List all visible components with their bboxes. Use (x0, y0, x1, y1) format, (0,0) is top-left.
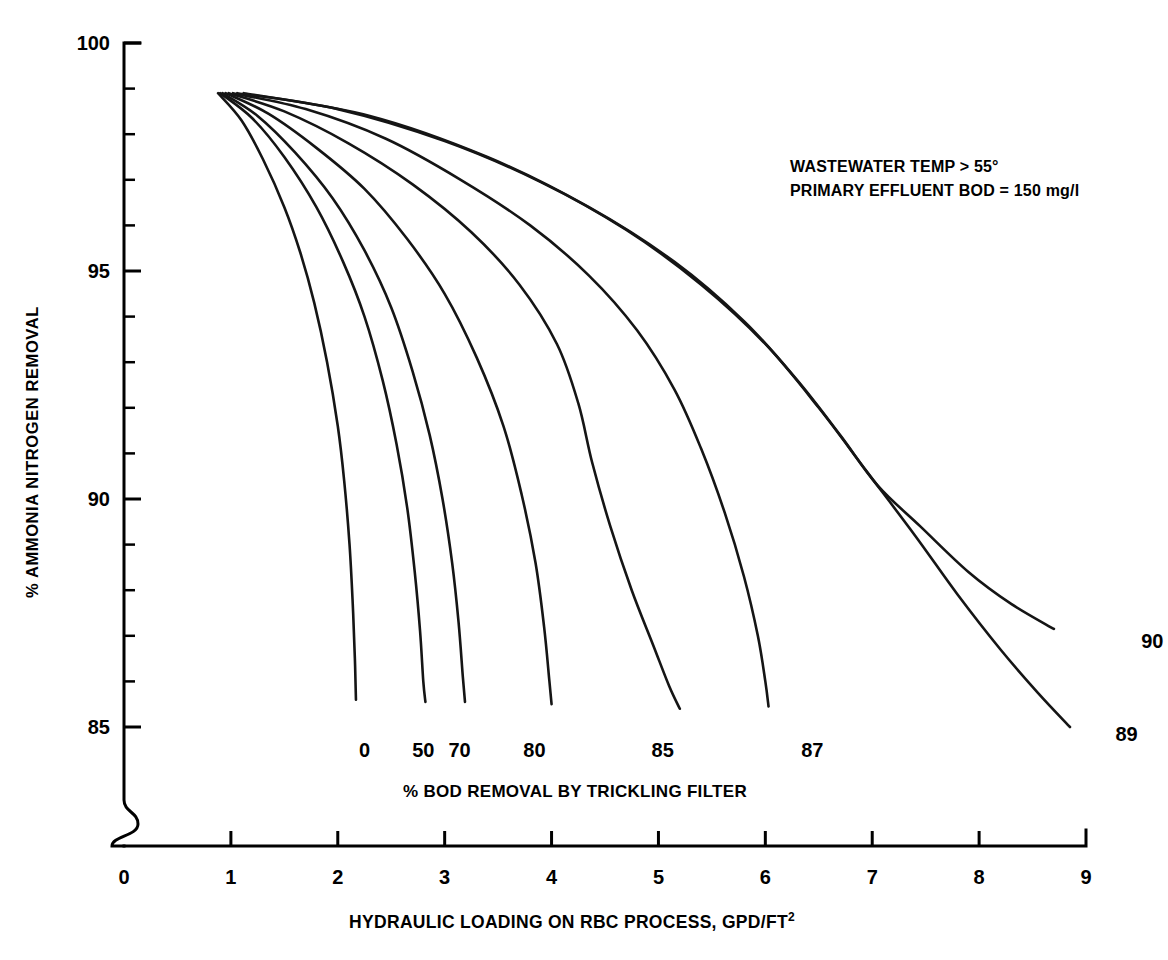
chart-svg: 100959085 0123456789 050708085878990 WAS… (0, 0, 1168, 960)
x-axis-title-text: HYDRAULIC LOADING ON RBC PROCESS, GPD/FT (349, 912, 788, 932)
curve-label-0: 0 (359, 739, 370, 761)
x-tick-label: 3 (439, 866, 450, 888)
x-axis-tick-labels: 0123456789 (118, 866, 1091, 888)
x-tick-label: 4 (546, 866, 558, 888)
y-tick-label: 90 (88, 488, 110, 510)
curve-label-80: 80 (523, 739, 545, 761)
y-tick-label: 85 (88, 716, 110, 738)
curve-70 (222, 93, 465, 702)
x-tick-label: 1 (225, 866, 236, 888)
annotation-bod: PRIMARY EFFLUENT BOD = 150 mg/l (790, 182, 1079, 199)
x-tick-label: 9 (1080, 866, 1091, 888)
y-axis-tick-labels: 100959085 (77, 32, 110, 738)
x-tick-label: 8 (974, 866, 985, 888)
y-axis-title: % AMMONIA NITROGEN REMOVAL (23, 306, 41, 598)
annotation-temperature: WASTEWATER TEMP > 55° (790, 158, 999, 175)
x-tick-label: 7 (867, 866, 878, 888)
x-tick-label: 6 (760, 866, 771, 888)
curve-label-70: 70 (449, 739, 471, 761)
y-tick-label: 100 (77, 32, 110, 54)
curve-label-87: 87 (801, 739, 823, 761)
curve-label-89: 89 (1115, 723, 1137, 745)
x-axis-title: HYDRAULIC LOADING ON RBC PROCESS, GPD/FT… (349, 910, 795, 932)
curve-label-50: 50 (412, 739, 434, 761)
y-tick-label: 95 (88, 260, 110, 282)
x-tick-label: 5 (653, 866, 664, 888)
x-tick-label: 2 (332, 866, 343, 888)
curve-label-90: 90 (1141, 630, 1163, 652)
curve-0 (218, 93, 356, 699)
curve-85 (229, 93, 680, 709)
curve-87 (233, 93, 769, 706)
x-axis-line (124, 830, 1086, 846)
curve-family-title: % BOD REMOVAL BY TRICKLING FILTER (403, 782, 747, 801)
svg-text:HYDRAULIC LOADING ON RBC PROCE: HYDRAULIC LOADING ON RBC PROCESS, GPD/FT… (349, 910, 795, 932)
annotation-block: WASTEWATER TEMP > 55° PRIMARY EFFLUENT B… (790, 158, 1079, 199)
x-axis-ticks (231, 831, 979, 846)
x-tick-label: 0 (118, 866, 129, 888)
y-axis-ticks (124, 43, 141, 727)
chart-figure: 100959085 0123456789 050708085878990 WAS… (0, 0, 1168, 960)
x-axis-title-superscript: 2 (788, 910, 795, 924)
curve-label-85: 85 (652, 739, 674, 761)
